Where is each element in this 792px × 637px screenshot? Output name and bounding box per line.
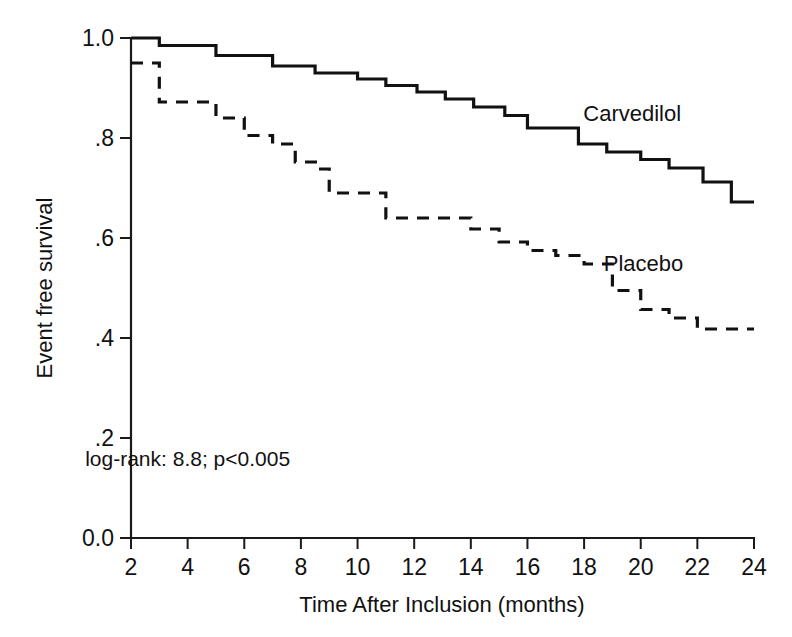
survival-curves	[131, 38, 754, 329]
log-rank-statistic: log-rank: 8.8; p<0.005	[85, 447, 290, 470]
x-tick-label: 14	[458, 554, 484, 580]
series-label-carvedilol: Carvedilol	[583, 101, 681, 126]
series-label-placebo: Placebo	[604, 251, 684, 276]
x-tick-label: 10	[345, 554, 371, 580]
chart-annotations: log-rank: 8.8; p<0.005	[85, 447, 290, 470]
series-labels: CarvedilolPlacebo	[583, 101, 683, 276]
y-tick-label: 1.0	[82, 25, 114, 51]
x-tick-label: 16	[515, 554, 541, 580]
x-tick-label: 12	[401, 554, 427, 580]
x-tick-label: 8	[295, 554, 308, 580]
x-tick-label: 20	[628, 554, 654, 580]
kaplan-meier-survival-chart: 0.0.2.4.6.81.0 24681012141618202224 Carv…	[0, 0, 792, 637]
y-axis-ticks: 0.0.2.4.6.81.0	[82, 25, 131, 551]
x-tick-label: 4	[181, 554, 194, 580]
y-tick-label: 0.0	[82, 525, 114, 551]
y-tick-label: .6	[95, 225, 114, 251]
figure-panel: 0.0.2.4.6.81.0 24681012141618202224 Carv…	[0, 0, 792, 637]
y-tick-label: .8	[95, 125, 114, 151]
x-axis-title: Time After Inclusion (months)	[299, 592, 584, 617]
x-tick-label: 24	[741, 554, 767, 580]
x-tick-label: 22	[685, 554, 711, 580]
x-tick-label: 2	[125, 554, 138, 580]
x-tick-label: 18	[571, 554, 597, 580]
y-tick-label: .4	[95, 325, 114, 351]
y-axis-title: Event free survival	[32, 198, 57, 379]
x-axis-ticks: 24681012141618202224	[125, 538, 767, 580]
x-tick-label: 6	[238, 554, 251, 580]
